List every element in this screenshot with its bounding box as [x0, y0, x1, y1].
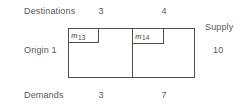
origin-row-label: Origin 1: [24, 45, 57, 56]
tableau-grid: m13 m14: [68, 28, 195, 78]
destination-index-2: 4: [161, 6, 166, 17]
demands-row-label: Demands: [24, 90, 64, 101]
destinations-row-label: Destinations: [24, 6, 75, 17]
supply-column-label: Supply: [205, 22, 233, 33]
variable-label-m14: m14: [135, 32, 149, 41]
tableau-cell-1-3: m13: [69, 29, 132, 77]
destination-index-1: 3: [98, 6, 103, 17]
tableau-cell-1-4: m14: [133, 29, 196, 77]
variable-subscript-m14: 14: [142, 34, 150, 41]
variable-label-m13: m13: [71, 31, 85, 40]
variable-box-m13: m13: [69, 29, 99, 43]
variable-box-m14: m14: [133, 29, 164, 44]
figure-canvas: Destinations 3 4 Supply 10 Origin 1 m13 …: [0, 0, 250, 109]
variable-subscript-m13: 13: [78, 34, 86, 41]
demand-value-2: 7: [161, 90, 166, 101]
demand-value-1: 3: [98, 90, 103, 101]
variable-base-m14: m: [135, 31, 142, 41]
supply-value: 10: [213, 45, 223, 56]
variable-base-m13: m: [71, 30, 78, 40]
